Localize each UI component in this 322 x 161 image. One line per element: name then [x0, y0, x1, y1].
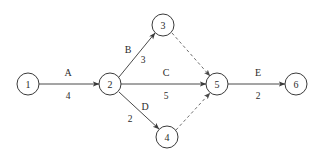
edge-duration-A: 4	[66, 91, 71, 101]
network-diagram-canvas: A4B3C5D2E2 123456	[0, 0, 322, 161]
edge-duration-C: 5	[164, 91, 169, 101]
node-2[interactable]: 2	[99, 73, 121, 95]
node-3[interactable]: 3	[152, 14, 174, 36]
node-label-1: 1	[26, 79, 31, 90]
edge-label-C: C	[163, 67, 170, 78]
edges-layer	[39, 33, 285, 130]
nodes-layer: 123456	[17, 14, 307, 148]
edge-duration-D: 2	[128, 114, 133, 124]
edge-label-B: B	[125, 44, 132, 55]
edge-dummy-4-5	[176, 93, 210, 130]
node-label-3: 3	[161, 20, 166, 31]
node-label-5: 5	[215, 79, 220, 90]
node-label-4: 4	[165, 132, 170, 143]
edge-B	[119, 33, 155, 77]
edge-dummy-3-5	[172, 33, 210, 76]
node-label-6: 6	[294, 79, 299, 90]
network-diagram: A4B3C5D2E2 123456	[0, 0, 322, 161]
node-4[interactable]: 4	[156, 126, 178, 148]
edge-label-D: D	[141, 101, 148, 112]
node-6[interactable]: 6	[285, 73, 307, 95]
edge-D	[119, 92, 159, 129]
edge-duration-E: 2	[256, 91, 261, 101]
edge-label-E: E	[255, 67, 261, 78]
edge-label-A: A	[64, 67, 72, 78]
node-label-2: 2	[108, 79, 113, 90]
edge-duration-B: 3	[141, 55, 146, 65]
node-1[interactable]: 1	[17, 73, 39, 95]
node-5[interactable]: 5	[206, 73, 228, 95]
